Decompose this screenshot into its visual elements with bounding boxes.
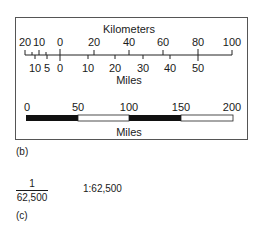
miles-title-bar: Miles bbox=[116, 127, 142, 138]
mile-tick-label: 10 bbox=[82, 63, 94, 74]
bar-scale-tick-label: 50 bbox=[72, 102, 84, 113]
bar-scale-tick-label: 150 bbox=[172, 102, 190, 113]
bar-scale-tick-label: 0 bbox=[24, 102, 30, 113]
bar-scale-tick-label: 200 bbox=[223, 102, 241, 113]
fraction-denominator: 62,500 bbox=[16, 191, 48, 203]
representative-fraction: 1 62,500 bbox=[16, 178, 48, 203]
caption-b: (b) bbox=[16, 147, 28, 157]
mile-tick-label: 50 bbox=[192, 63, 204, 74]
mile-tick-label: 20 bbox=[109, 63, 121, 74]
ratio-scale: 1:62,500 bbox=[83, 184, 122, 194]
mile-tick-label: 40 bbox=[164, 63, 176, 74]
miles-title-dual: Miles bbox=[116, 75, 142, 86]
mile-tick-label: 10 bbox=[29, 63, 41, 74]
bar-scale-tick-label: 100 bbox=[120, 102, 138, 113]
fraction-numerator: 1 bbox=[16, 178, 48, 191]
mile-tick-label: 0 bbox=[57, 63, 63, 74]
caption-c: (c) bbox=[16, 211, 28, 221]
mile-tick-label: 30 bbox=[137, 63, 149, 74]
mile-tick-label: 5 bbox=[44, 63, 50, 74]
